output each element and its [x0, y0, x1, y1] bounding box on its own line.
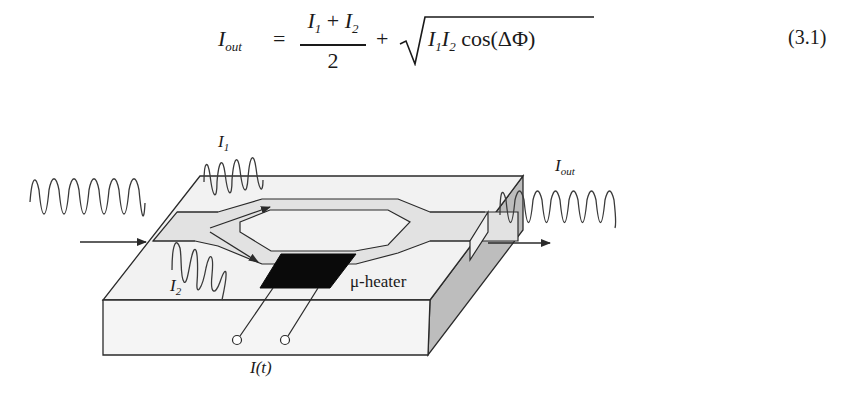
label-i2: I2: [170, 276, 181, 297]
mach-zehnder-modulator-diagram: [0, 0, 860, 395]
input-wave: [30, 179, 145, 216]
slab-front-face: [103, 300, 430, 355]
label-micro-heater: μ-heater: [350, 272, 406, 292]
terminal-left-icon: [233, 336, 242, 345]
label-iout: Iout: [555, 156, 575, 177]
label-current: I(t): [250, 358, 272, 378]
label-i1: I1: [218, 132, 229, 153]
terminal-right-icon: [281, 336, 290, 345]
